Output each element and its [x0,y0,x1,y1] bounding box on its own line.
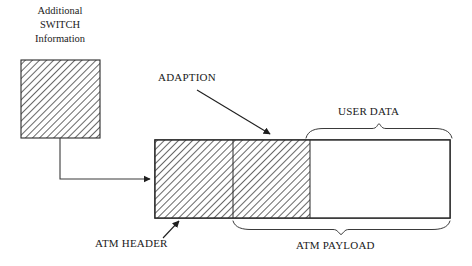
atm-header-pointer-arrow [163,221,179,238]
adaption-segment [233,140,310,218]
diagram-canvas: AdditionalSWITCHInformation ADAPTION USE… [0,0,472,266]
atm-header-segment [155,140,233,218]
additional-switch-information-box [21,60,100,138]
switch-to-header-connector [60,138,150,179]
diagram-vector-layer [0,0,472,266]
user-data-brace [306,124,452,139]
atm-payload-brace [233,221,450,235]
user-data-segment [310,140,450,218]
adaption-pointer-arrow [197,90,270,134]
